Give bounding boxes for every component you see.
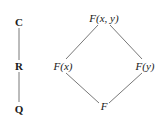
node-fy: F(y) [136,60,155,72]
node-c: C [15,16,23,28]
edge-fxy-fy [110,25,142,59]
edge-fx-f [66,73,99,103]
node-f: F [101,100,108,112]
node-fx: F(x) [54,60,73,72]
node-q: Q [15,103,24,115]
edge-fy-f [109,73,142,103]
node-r: R [15,60,23,72]
node-fxy: F(x, y) [89,12,118,24]
edge-fxy-fx [66,25,98,59]
